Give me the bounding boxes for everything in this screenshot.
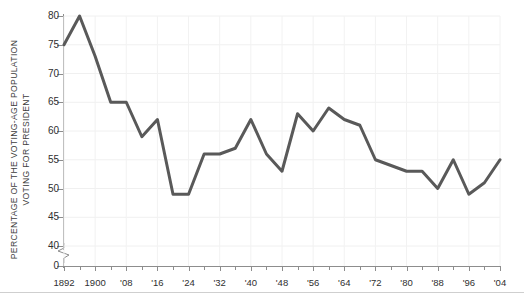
data-line bbox=[64, 16, 500, 266]
x-axis-tick-label: '96 bbox=[463, 277, 475, 288]
y-axis-tick-label: 0 bbox=[19, 261, 59, 271]
x-axis-minor-tick bbox=[235, 266, 236, 270]
x-axis-tick-label: '24 bbox=[182, 277, 194, 288]
x-axis-tick bbox=[126, 266, 127, 271]
x-axis-tick bbox=[313, 266, 314, 271]
plot-area bbox=[64, 16, 500, 266]
y-axis-title-line-1: PERCENTAGE OF THE VOTING-AGE POPULATION bbox=[9, 40, 20, 259]
x-axis-tick bbox=[157, 266, 158, 271]
y-axis-tick-label: 60 bbox=[19, 126, 59, 136]
x-axis-minor-tick bbox=[360, 266, 361, 270]
x-axis-minor-tick bbox=[111, 266, 112, 270]
x-axis-minor-tick bbox=[266, 266, 267, 270]
vertical-gridlines bbox=[64, 16, 500, 266]
x-axis-tick bbox=[375, 266, 376, 271]
x-axis-tick bbox=[500, 266, 501, 271]
x-axis-tick-label: '40 bbox=[245, 277, 257, 288]
x-axis-minor-tick bbox=[204, 266, 205, 270]
x-axis-minor-tick bbox=[422, 266, 423, 270]
x-axis-tick bbox=[220, 266, 221, 271]
x-axis-tick-label: '32 bbox=[214, 277, 226, 288]
x-axis-tick-label: 1900 bbox=[85, 277, 106, 288]
x-axis-minor-tick bbox=[453, 266, 454, 270]
x-axis-minor-tick bbox=[298, 266, 299, 270]
x-axis-tick bbox=[251, 266, 252, 271]
x-axis-minor-tick bbox=[80, 266, 81, 270]
x-axis-minor-tick bbox=[142, 266, 143, 270]
y-axis-tick-label: 75 bbox=[19, 40, 59, 50]
y-axis-tick-label: 45 bbox=[19, 212, 59, 222]
y-axis-tick-label: 50 bbox=[19, 184, 59, 194]
x-axis-tick bbox=[282, 266, 283, 271]
y-axis-tick-label: 40 bbox=[19, 241, 59, 251]
y-axis-tick-label: 55 bbox=[19, 155, 59, 165]
x-axis-tick-label: '72 bbox=[369, 277, 381, 288]
y-axis-tick-label: 80 bbox=[19, 11, 59, 21]
voter-turnout-line-chart: PERCENTAGE OF THE VOTING-AGE POPULATION … bbox=[0, 0, 524, 299]
x-axis-tick-label: '48 bbox=[276, 277, 288, 288]
x-axis-tick bbox=[469, 266, 470, 271]
x-axis-tick-label: '88 bbox=[432, 277, 444, 288]
x-axis-tick bbox=[189, 266, 190, 271]
x-axis-tick bbox=[438, 266, 439, 271]
x-axis-minor-tick bbox=[391, 266, 392, 270]
x-axis-tick bbox=[407, 266, 408, 271]
x-axis-tick-label: '08 bbox=[120, 277, 132, 288]
x-axis-tick-label: '64 bbox=[338, 277, 350, 288]
x-axis-tick-label: '04 bbox=[494, 277, 506, 288]
x-axis-tick bbox=[344, 266, 345, 271]
x-axis-tick-label: '80 bbox=[400, 277, 412, 288]
x-axis-tick-label: 1892 bbox=[53, 277, 74, 288]
x-axis-tick bbox=[95, 266, 96, 271]
x-axis-tick bbox=[64, 266, 65, 271]
y-axis-tick-label: 65 bbox=[19, 97, 59, 107]
x-axis-minor-tick bbox=[173, 266, 174, 270]
x-axis-minor-tick bbox=[329, 266, 330, 270]
footer-rule bbox=[0, 292, 524, 293]
x-axis-minor-tick bbox=[484, 266, 485, 270]
x-axis-tick-label: '56 bbox=[307, 277, 319, 288]
y-axis-tick-label: 70 bbox=[19, 69, 59, 79]
x-axis-tick-label: '16 bbox=[151, 277, 163, 288]
